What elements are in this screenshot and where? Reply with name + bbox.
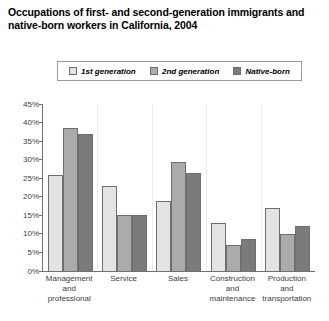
bar[interactable]: [265, 208, 280, 271]
bar-group: [97, 104, 151, 271]
legend-item[interactable]: 1st generation: [69, 67, 136, 76]
chart-title-line-2: native-born workers in California, 2004: [8, 19, 321, 32]
bar[interactable]: [132, 215, 147, 271]
legend-item-label: Native-born: [245, 67, 289, 76]
legend-swatch-icon: [69, 67, 77, 75]
chart-title-line-1: Occupations of first- and second-generat…: [8, 6, 304, 18]
bar[interactable]: [226, 245, 241, 271]
bar-group: [43, 104, 97, 271]
x-axis-label: Service: [96, 274, 150, 320]
bar[interactable]: [48, 175, 63, 271]
x-axis-label: Productionandtransportation: [260, 274, 314, 320]
bar[interactable]: [241, 239, 256, 271]
bar-group: [261, 104, 315, 271]
x-axis-label: Constructionandmaintenance: [205, 274, 259, 320]
x-axis-label-line: transportation: [261, 294, 313, 304]
bar-group: [152, 104, 206, 271]
x-axis-label-line: Sales: [152, 274, 204, 284]
legend-item-label: 2nd generation: [162, 67, 219, 76]
chart-figure: Occupations of first- and second-generat…: [0, 0, 329, 321]
bar[interactable]: [156, 201, 171, 272]
chart-title: Occupations of first- and second-generat…: [8, 6, 321, 32]
bars-layer: [43, 104, 315, 271]
legend-item[interactable]: 2nd generation: [150, 67, 219, 76]
chart-legend: 1st generation2nd generationNative-born: [57, 61, 302, 81]
legend-swatch-icon: [150, 67, 158, 75]
bar[interactable]: [186, 173, 201, 271]
bar[interactable]: [117, 215, 132, 271]
x-axis-label-line: Production: [261, 274, 313, 284]
legend-item[interactable]: Native-born: [233, 67, 289, 76]
bar[interactable]: [102, 186, 117, 271]
x-axis-label: Managementandprofessional: [42, 274, 96, 320]
bar[interactable]: [211, 223, 226, 271]
x-axis-label-line: Construction: [206, 274, 258, 284]
x-axis-label-line: and: [261, 284, 313, 294]
legend-item-label: 1st generation: [81, 67, 136, 76]
x-axis-label-line: and: [206, 284, 258, 294]
bar-group: [206, 104, 260, 271]
x-axis-label-line: and: [43, 284, 95, 294]
bar[interactable]: [171, 162, 186, 271]
x-axis-label-line: Service: [97, 274, 149, 284]
bar[interactable]: [63, 128, 78, 271]
bar[interactable]: [280, 234, 295, 271]
x-axis-label-line: professional: [43, 294, 95, 304]
x-axis-label: Sales: [151, 274, 205, 320]
legend-swatch-icon: [233, 67, 241, 75]
x-axis-label-line: maintenance: [206, 294, 258, 304]
x-axis-labels: ManagementandprofessionalServiceSalesCon…: [42, 274, 314, 320]
bar[interactable]: [78, 134, 93, 271]
bar[interactable]: [295, 226, 310, 271]
x-axis-label-line: Management: [43, 274, 95, 284]
plot-area: 45%40%35%30%25%20%15%10%5%0%: [42, 104, 315, 272]
